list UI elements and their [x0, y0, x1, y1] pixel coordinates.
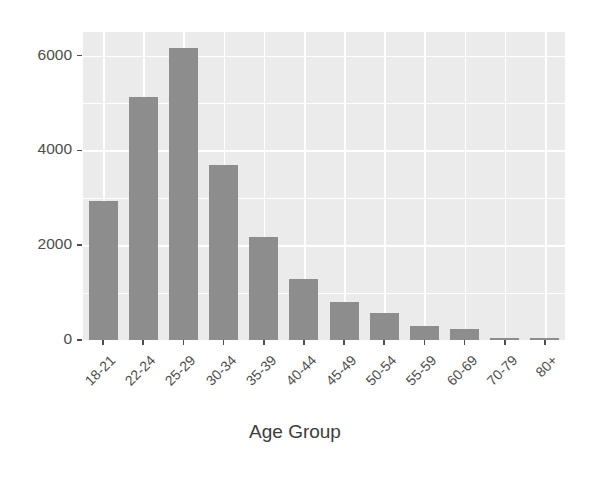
bar-chart-figure: 0200040006000 18-2122-2425-2930-3435-394…	[0, 0, 590, 477]
x-axis-tick-mark	[263, 340, 265, 345]
x-axis-tick-mark	[383, 340, 385, 345]
gridline-vertical-major	[344, 32, 346, 340]
x-axis-tick-mark	[504, 340, 506, 345]
gridline-vertical-major	[465, 32, 467, 340]
x-axis-title: Age Group	[0, 421, 590, 443]
gridline-horizontal-major	[83, 56, 565, 58]
y-axis-tick-label: 6000	[0, 46, 72, 64]
bar	[410, 326, 439, 340]
bar	[450, 329, 479, 340]
gridline-vertical-major	[384, 32, 386, 340]
x-axis-tick-mark	[343, 340, 345, 345]
x-axis-tick-mark	[142, 340, 144, 345]
gridline-vertical-major	[424, 32, 426, 340]
x-axis-tick-mark	[303, 340, 305, 345]
y-axis-tick-label: 0	[0, 330, 72, 348]
bar	[289, 279, 318, 340]
bar	[129, 97, 158, 340]
bar	[89, 201, 118, 340]
bar	[209, 165, 238, 340]
bar	[370, 313, 399, 340]
y-axis-tick-mark	[77, 339, 82, 341]
x-axis-tick-mark	[424, 340, 426, 345]
x-axis-tick-mark	[544, 340, 546, 345]
y-axis-tick-label: 2000	[0, 235, 72, 253]
plot-panel	[83, 32, 565, 340]
y-axis-tick-label: 4000	[0, 140, 72, 158]
bar	[249, 237, 278, 340]
x-axis-tick-mark	[464, 340, 466, 345]
y-axis-tick-mark	[77, 244, 82, 246]
bar	[169, 48, 198, 340]
y-axis-tick-mark	[77, 150, 82, 152]
y-axis-tick-mark	[77, 55, 82, 57]
bar	[330, 302, 359, 340]
gridline-vertical-major	[505, 32, 507, 340]
x-axis-tick-mark	[183, 340, 185, 345]
gridline-vertical-major	[545, 32, 547, 340]
x-axis-tick-mark	[102, 340, 104, 345]
x-axis-tick-mark	[223, 340, 225, 345]
